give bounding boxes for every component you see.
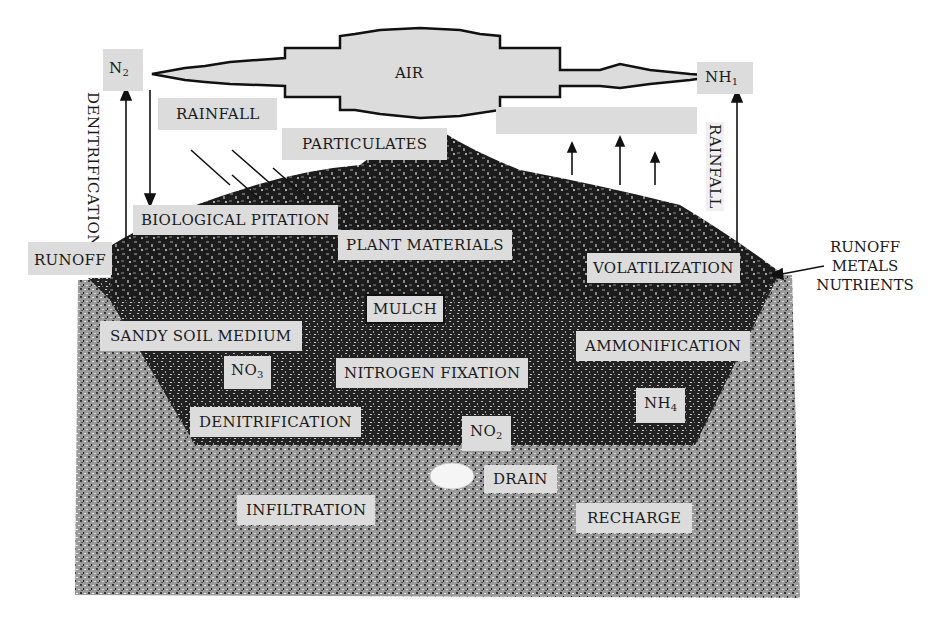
drain-label: DRAIN: [484, 465, 557, 493]
denitrification-soil-label: DENITRIFICATION: [190, 407, 361, 437]
nitrogen-cycle-diagram: AIR N2 NH1 DENITRIFICATION RAINFALL RAIN…: [0, 0, 936, 629]
nitrogen-fixation-label: NITROGEN FIXATION: [336, 358, 528, 388]
plant-materials-label: PLANT MATERIALS: [338, 230, 512, 260]
side-note-metals: METALS: [810, 257, 920, 276]
nh4-label: NH4: [636, 388, 685, 423]
infiltration-label: INFILTRATION: [237, 495, 375, 525]
mulch-label: MULCH: [365, 294, 445, 324]
particulates-label: PARTICULATES: [282, 128, 447, 160]
blank-label-box: [496, 107, 697, 134]
diagram-artwork: [0, 0, 936, 629]
ammonification-label: AMMONIFICATION: [576, 331, 750, 361]
runoff-metals-nutrients-note: RUNOFF METALS NUTRIENTS: [810, 238, 920, 295]
sandy-soil-medium-label: SANDY SOIL MEDIUM: [100, 321, 302, 351]
no3-label: NO3: [224, 356, 271, 389]
drain-pipe: [430, 463, 474, 489]
recharge-label: RECHARGE: [576, 503, 692, 533]
biological-pitation-label: BIOLOGICAL PITATION: [133, 205, 338, 235]
denitrification-vertical-label: DENITRIFICATION: [84, 92, 102, 248]
n2-gas-label: N2: [103, 49, 143, 91]
rainfall-label: RAINFALL: [158, 98, 277, 130]
side-note-runoff: RUNOFF: [810, 238, 920, 257]
runoff-label: RUNOFF: [28, 242, 112, 275]
side-note-nutrients: NUTRIENTS: [810, 276, 920, 295]
air-label: AIR: [395, 64, 423, 83]
no2-label: NO2: [462, 416, 511, 451]
rainfall-vertical-label: RAINFALL: [706, 122, 724, 211]
nh1-gas-label: NH1: [697, 62, 753, 94]
volatilization-label: VOLATILIZATION: [587, 253, 740, 283]
